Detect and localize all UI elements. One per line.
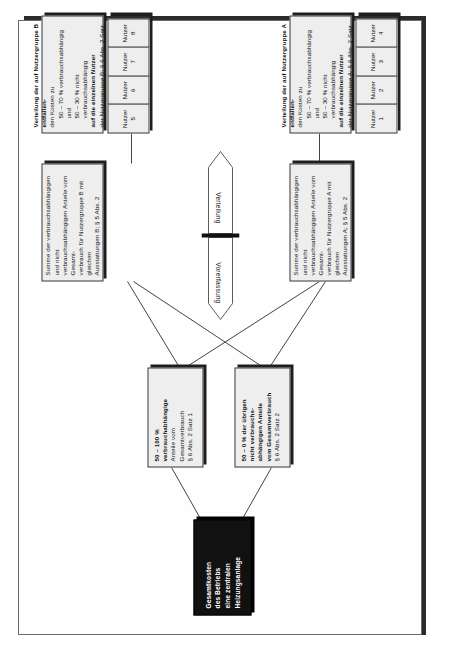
dist-a-line-5: auf die einzelnen Nutzer <box>337 22 345 128</box>
node-split-verbrauchabhaengig[interactable]: 50 – 100 % verbrauchabhängige Anteile vo… <box>148 368 204 468</box>
node-verteilung-nutzergruppe-b[interactable]: Verteilung der auf Nutzergruppe B entfal… <box>42 16 104 134</box>
nutzer-label: Nutzer <box>120 110 128 128</box>
phase-label-vorerfassung: Vorerfassung <box>215 262 222 303</box>
nutzer-number: 4 <box>377 32 385 35</box>
root-line-4: Heizungsanlage <box>232 527 242 609</box>
nutzer-cell[interactable]: Nutzer 4 <box>356 19 398 49</box>
node-summe-nutzergruppe-b[interactable]: Summe der verbrauchsabhängigen und nicht… <box>42 164 104 282</box>
split-fixed-line-2: nicht verbrauchs- <box>248 374 256 462</box>
sum-a-line-3: verbrauch für Nutzergruppe A mit gleiche… <box>325 170 341 276</box>
nutzer-number: 8 <box>129 32 137 35</box>
split-fixed-line-3: abhängigen Anteile <box>256 374 264 462</box>
nutzer-strip-group-b: Nutzer 5 Nutzer 6 Nutzer 7 Nutzer 8 <box>108 16 150 134</box>
nutzer-cell[interactable]: Nutzer 7 <box>108 47 150 77</box>
dist-b-line-5: auf die einzelnen Nutzer <box>89 22 97 128</box>
nutzer-label: Nutzer <box>368 24 376 42</box>
dist-a-line-4: 50 – 30 % nicht verbrauchsabhängig <box>321 22 337 128</box>
split-fixed-line-1: 50 – 0 % der übrigen <box>240 374 248 462</box>
sum-a-line-4: Ausstattungen A; § 5 Abs. 2 <box>341 170 349 276</box>
split-fixed-line-4: vom Gesamtverbrauch <box>264 374 272 462</box>
sum-b-line-2: verbrauchsabhängigen Anteile vom Gesamt- <box>60 170 76 276</box>
nutzer-label: Nutzer <box>120 53 128 71</box>
root-line-2: des Betriebs <box>213 527 223 609</box>
node-verteilung-nutzergruppe-a[interactable]: Verteilung der auf Nutzergruppe A entfal… <box>290 16 352 134</box>
scanned-page: Gesamtkosten des Betriebs eine zentralen… <box>18 20 422 635</box>
dist-b-line-3: 50 – 70 % verbrauchsabhängig und <box>56 22 72 128</box>
dist-a-line-3: 50 – 70 % verbrauchsabhängig und <box>304 22 320 128</box>
dist-b-line-2: den Kosten zu <box>48 22 56 128</box>
nutzer-strip-group-a: Nutzer 1 Nutzer 2 Nutzer 3 Nutzer 4 <box>356 16 398 134</box>
sum-a-line-2: verbrauchsabhängigen Anteile vom Gesamt- <box>308 170 324 276</box>
sum-a-line-1: Summe der verbrauchsabhängigen und nicht <box>292 170 308 276</box>
diagram-canvas: Gesamtkosten des Betriebs eine zentralen… <box>20 21 422 634</box>
nutzer-number: 7 <box>129 60 137 63</box>
nutzer-cell[interactable]: Nutzer 8 <box>108 19 150 49</box>
nutzer-label: Nutzer <box>120 81 128 99</box>
nutzer-cell[interactable]: Nutzer 6 <box>108 76 150 106</box>
sum-b-line-1: Summe der verbrauchsabhängigen und nicht <box>44 170 60 276</box>
dist-b-line-4: 50 – 30 % nicht verbrauchsabhängig <box>73 22 89 128</box>
node-split-nicht-verbrauchabhaengig[interactable]: 50 – 0 % der übrigen nicht verbrauchs- a… <box>235 368 291 468</box>
nutzer-cell[interactable]: Nutzer 1 <box>356 104 398 134</box>
nutzer-label: Nutzer <box>368 110 376 128</box>
nutzer-label: Nutzer <box>120 24 128 42</box>
nutzer-number: 2 <box>377 89 385 92</box>
nutzer-number: 6 <box>129 89 137 92</box>
phase-divider: Vorerfassung Verteilung <box>202 138 240 334</box>
split-consumption-line-3: Anteile vom <box>169 374 177 462</box>
split-fixed-line-5: § 6 Abs. 2 Satz 2 <box>272 374 280 462</box>
nutzer-cell[interactable]: Nutzer 2 <box>356 76 398 106</box>
split-consumption-line-1: 50 – 100 % <box>153 374 161 462</box>
root-line-3: eine zentralen <box>223 527 233 609</box>
dist-a-line-2: den Kosten zu <box>296 22 304 128</box>
nutzer-number: 3 <box>377 60 385 63</box>
sum-b-line-4: Ausstattungen B; § 5 Abs. 2 <box>93 170 101 276</box>
nutzer-number: 5 <box>129 117 137 120</box>
split-consumption-line-4: Gesamtverbrauch <box>177 374 185 462</box>
phase-arrow-shape <box>202 138 240 334</box>
split-consumption-line-2: verbrauchabhängige <box>161 374 169 462</box>
root-line-1: Gesamtkosten <box>203 527 213 609</box>
nutzer-cell[interactable]: Nutzer 5 <box>108 104 150 134</box>
dist-a-line-1: Verteilung der auf Nutzergruppe A entfal… <box>280 22 296 128</box>
nutzer-label: Nutzer <box>368 53 376 71</box>
phase-label-verteilung: Verteilung <box>215 192 222 223</box>
dist-b-line-1: Verteilung der auf Nutzergruppe B entfal… <box>32 22 48 128</box>
nutzer-label: Nutzer <box>368 81 376 99</box>
sum-b-line-3: verbrauch für Nutzergruppe B mit gleiche… <box>77 170 93 276</box>
nutzer-number: 1 <box>377 117 385 120</box>
nutzer-cell[interactable]: Nutzer 3 <box>356 47 398 77</box>
split-consumption-line-5: § 6 Abs. 2 Satz 1 <box>185 374 193 462</box>
node-summe-nutzergruppe-a[interactable]: Summe der verbrauchsabhängigen und nicht… <box>290 164 352 282</box>
node-gesamtkosten[interactable]: Gesamtkosten des Betriebs eine zentralen… <box>194 520 252 616</box>
